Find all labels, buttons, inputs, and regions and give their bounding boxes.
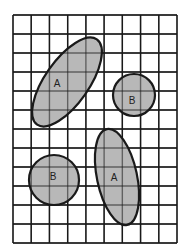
label-b-lower: B [50,171,57,182]
label-b-upper: B [129,95,136,106]
shapes-layer [19,27,155,229]
label-a-upper: A [54,78,61,89]
grid-diagram: ABBA [0,0,184,251]
label-a-lower: A [111,172,118,183]
